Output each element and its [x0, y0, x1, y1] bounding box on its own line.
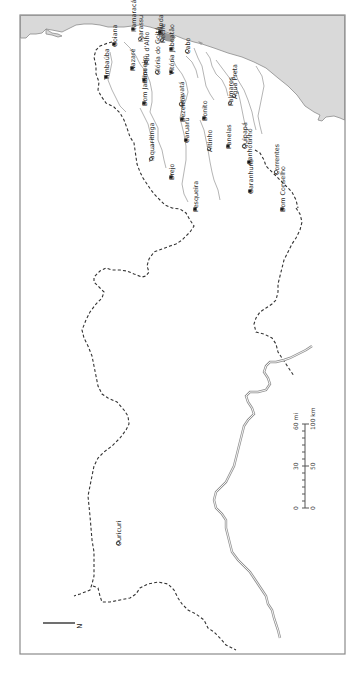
place-label: Bonito: [201, 100, 209, 121]
place-label: Ouricuri: [115, 520, 123, 546]
place-panelas: Panelas: [225, 124, 233, 149]
place-bom-conselho: Bom Conselho: [279, 166, 287, 212]
place--gua-preta: Água Preta: [231, 64, 239, 99]
place-label: Vitória: [168, 54, 176, 75]
scale-km-100: 100 km: [309, 407, 316, 430]
place-label: Caruaru: [183, 117, 191, 143]
map-canvas: GoianaItamaracáTimbaúbaIgarassuOlindaPau…: [0, 0, 355, 679]
place-caruaru: Caruaru: [183, 117, 191, 143]
place-label: Água Preta: [231, 64, 239, 99]
place-label: Nazaré: [129, 49, 137, 71]
place-bom-jardim: Bom Jardim: [141, 69, 149, 106]
place-pesqueira: Pesqueira: [192, 181, 200, 212]
scale-km-0: 0: [309, 506, 316, 510]
place-jaboat-o: Jaboatão: [168, 24, 176, 53]
place-label: Jaboatão: [168, 24, 176, 53]
scale-mi-30: 30: [292, 462, 299, 470]
scale-km-50: 50: [309, 462, 316, 470]
place-cabo: Cabo: [184, 38, 192, 54]
place-timba-ba: Timbaúba: [103, 48, 111, 81]
place-label: Bom Conselho: [279, 166, 287, 212]
place-nazar-: Nazaré: [129, 49, 137, 71]
place-label: Altinho: [206, 129, 214, 152]
place-altinho: Altinho: [206, 129, 214, 152]
place-label: Goiana: [111, 24, 119, 47]
place-label: Cabo: [184, 38, 192, 54]
place-label: Garanhuns: [247, 158, 255, 194]
place-bonito: Bonito: [201, 100, 209, 121]
north-label: N: [76, 623, 84, 628]
place-label: Panelas: [225, 124, 233, 149]
place-label: Taquaritinga: [148, 122, 156, 163]
place-brejo: Brejo: [168, 163, 176, 180]
place-ouricuri: Ouricuri: [115, 520, 123, 546]
place-taquaritinga: Taquaritinga: [148, 122, 156, 163]
scale-mi-60: 60 mi: [292, 413, 299, 430]
place-goiana: Goiana: [111, 24, 119, 47]
place-label: Timbaúba: [103, 48, 111, 81]
place-gl-ria-do-goit-: Glória do Goitá: [154, 27, 162, 75]
place-label: Bom Jardim: [141, 69, 149, 106]
place-label: Brejo: [168, 163, 176, 180]
place-label: Glória do Goitá: [154, 27, 162, 75]
place-label: Pesqueira: [192, 181, 200, 212]
scale-mi-0: 0: [292, 506, 299, 510]
place-garanhuns: Garanhuns: [247, 158, 255, 194]
place-vit-ria: Vitória: [168, 54, 176, 75]
